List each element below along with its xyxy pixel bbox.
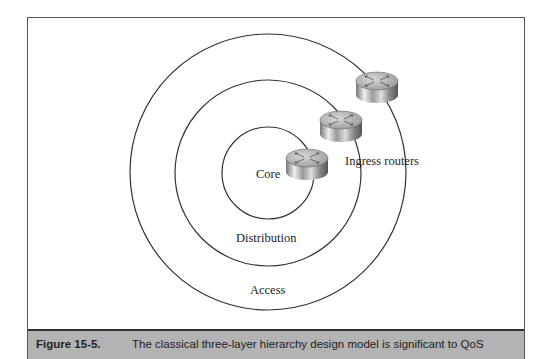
access-label: Access (250, 283, 285, 298)
ingress-routers-label: Ingress routers (345, 154, 419, 169)
caption-text: The classical three-layer hierarchy desi… (132, 338, 484, 350)
distribution-label: Distribution (236, 231, 296, 246)
router-icon (286, 149, 328, 180)
router-icon (320, 111, 362, 142)
figure-number: Figure 15-5. (36, 338, 101, 350)
figure-caption: Figure 15-5. The classical three-layer h… (27, 329, 525, 359)
core-label: Core (256, 167, 280, 182)
router-icon (356, 72, 398, 103)
